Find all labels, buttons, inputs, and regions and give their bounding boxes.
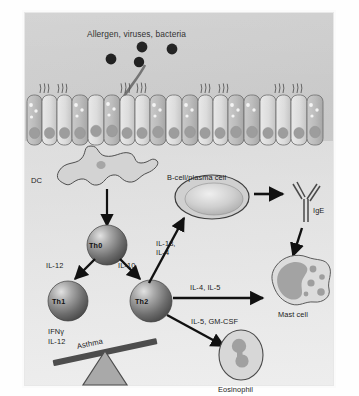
- il4-th2-bcell-label: IL-4: [156, 248, 169, 257]
- il5-gmcsf-eos-label: IL-5, GM-CSF: [191, 317, 238, 326]
- figure-root: Allergen, viruses, bacteria DC Th0 Th1 T…: [0, 0, 359, 396]
- cilia: [40, 83, 302, 93]
- b-cell-nucleus: [185, 183, 243, 215]
- pathogen-particles: [106, 42, 178, 68]
- th0-label: Th0: [89, 241, 102, 250]
- ige-label: IgE: [313, 206, 324, 215]
- diagram-panel: Allergen, viruses, bacteria DC Th0 Th1 T…: [24, 12, 334, 386]
- il12-th0-th1-label: IL-12: [46, 261, 63, 270]
- il13-th2-bcell-label: IL-13,: [156, 239, 176, 248]
- eosinophil-label: Eosinophil: [218, 385, 253, 394]
- th1-label: Th1: [52, 297, 65, 306]
- ige-to-mast-arrow: [293, 228, 302, 256]
- mast-cell-label: Mast cell: [278, 310, 308, 319]
- il10-th0-th2-label: IL-10: [118, 261, 135, 270]
- dendritic-cell-nucleus: [96, 161, 105, 169]
- th1-output-il12: IL-12: [48, 337, 65, 346]
- il4-il5-mast-label: IL-4, IL-5: [190, 283, 221, 292]
- th2-label: Th2: [135, 297, 148, 306]
- ige-antibody: [293, 182, 320, 222]
- figure-title: Allergen, viruses, bacteria: [87, 29, 186, 39]
- bcell-label: B-cell/plasma cell: [167, 173, 226, 182]
- diagram-graphics: [25, 13, 333, 385]
- dendritic-cell-body: [57, 146, 157, 185]
- dc-label: DC: [31, 176, 42, 185]
- th0-to-th1-arrow: [75, 259, 95, 279]
- th1-output-ifng: IFNγ: [48, 327, 64, 336]
- asthma-seesaw: [53, 338, 158, 385]
